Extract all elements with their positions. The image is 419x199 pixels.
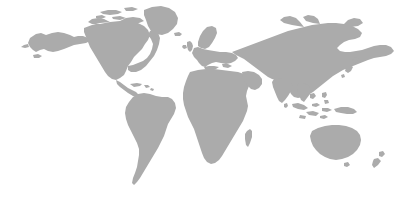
- world-map-graphic: [0, 0, 419, 199]
- world-map-figure: Grey silhouette world map on a white bac…: [0, 0, 419, 199]
